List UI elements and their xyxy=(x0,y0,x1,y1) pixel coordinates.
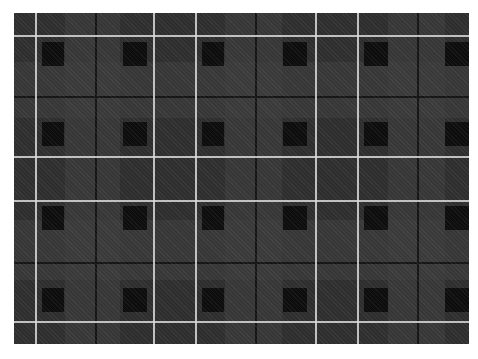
white-line-horizontal xyxy=(14,321,469,323)
white-line-horizontal xyxy=(14,35,469,37)
white-line-horizontal xyxy=(14,156,469,158)
dark-block xyxy=(123,122,147,146)
dark-block xyxy=(364,206,388,230)
dark-block xyxy=(364,288,388,312)
dark-block xyxy=(364,42,388,66)
thin-dark-line-horizontal xyxy=(14,262,469,264)
dark-block xyxy=(42,122,64,146)
dark-block xyxy=(283,42,307,66)
dark-block xyxy=(42,206,64,230)
dark-block xyxy=(445,206,469,230)
white-line-vertical xyxy=(315,13,317,344)
white-line-vertical xyxy=(195,13,197,344)
dark-block xyxy=(42,42,64,66)
light-band-horizontal xyxy=(14,62,469,118)
dark-block xyxy=(123,206,147,230)
white-line-vertical xyxy=(153,13,155,344)
white-line-vertical xyxy=(35,13,37,344)
dark-block xyxy=(123,288,147,312)
thin-dark-line-vertical xyxy=(95,13,97,344)
dark-block xyxy=(283,206,307,230)
thin-dark-line-vertical xyxy=(255,13,257,344)
white-line-vertical xyxy=(357,13,359,344)
dark-block xyxy=(283,288,307,312)
dark-block xyxy=(123,42,147,66)
dark-block xyxy=(283,122,307,146)
dark-block xyxy=(445,122,469,146)
dark-block xyxy=(202,42,224,66)
dark-block xyxy=(202,206,224,230)
dark-block xyxy=(445,42,469,66)
plaid-fabric xyxy=(14,13,469,344)
thin-dark-line-horizontal xyxy=(14,96,469,98)
white-line-horizontal xyxy=(14,200,469,202)
light-band-horizontal xyxy=(14,220,469,280)
dark-block xyxy=(202,288,224,312)
thin-dark-line-vertical xyxy=(417,13,419,344)
dark-block xyxy=(364,122,388,146)
dark-block xyxy=(202,122,224,146)
dark-block xyxy=(445,288,469,312)
dark-block xyxy=(42,288,64,312)
